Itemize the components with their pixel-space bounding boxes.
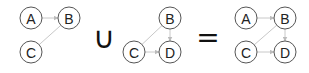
node-d: D <box>159 41 181 63</box>
svg-text:A: A <box>241 11 251 27</box>
edge-b-c <box>254 25 276 45</box>
svg-text:C: C <box>26 45 36 61</box>
svg-text:B: B <box>165 11 174 27</box>
svg-text:B: B <box>64 11 73 27</box>
node-c: C <box>123 41 145 63</box>
svg-text:C: C <box>129 45 139 61</box>
node-a: A <box>20 7 42 29</box>
node-c: C <box>235 41 257 63</box>
node-b: B <box>274 7 296 29</box>
node-b: B <box>159 7 181 29</box>
graph-union-diagram: ABCBCDABCD ∪ = <box>0 0 309 73</box>
graph-result: ABCD <box>235 7 296 63</box>
equals-operator: = <box>196 21 219 54</box>
graph-1: ABC <box>20 7 80 63</box>
svg-text:B: B <box>280 11 289 27</box>
edge-b-c <box>142 26 162 45</box>
node-c: C <box>20 41 42 63</box>
node-a: A <box>235 7 257 29</box>
node-b: B <box>58 7 80 29</box>
svg-text:D: D <box>165 45 175 61</box>
node-d: D <box>274 41 296 63</box>
svg-text:A: A <box>26 11 36 27</box>
union-operator: ∪ <box>93 20 115 55</box>
svg-text:C: C <box>241 45 251 61</box>
edge-b-c <box>39 25 61 44</box>
svg-text:D: D <box>280 45 290 61</box>
graph-2: BCD <box>123 7 181 63</box>
